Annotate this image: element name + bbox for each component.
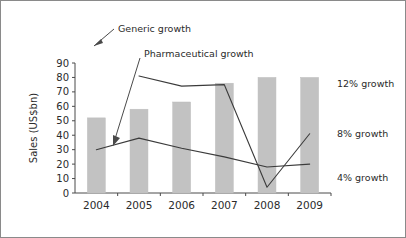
- y-axis-title: Sales (US$bn): [28, 93, 39, 163]
- annotation-generic-growth: Generic growth: [94, 23, 191, 46]
- x-category-label-2004: 2004: [83, 199, 110, 211]
- line-series-group: [96, 76, 309, 187]
- y-tick-label: 0: [63, 188, 69, 199]
- right-label-growth-4: 4% growth: [337, 172, 388, 183]
- x-category-label-2006: 2006: [168, 199, 195, 211]
- y-tick-label: 30: [56, 144, 69, 155]
- right-label-growth-8: 8% growth: [337, 128, 388, 139]
- x-category-label-2005: 2005: [126, 199, 153, 211]
- y-tick-label: 80: [56, 72, 69, 83]
- chart-frame: 0102030405060708090 20042005200620072008…: [0, 0, 406, 238]
- y-tick-label: 60: [56, 101, 69, 112]
- x-axis-group: 200420052006200720082009: [75, 193, 331, 211]
- y-tick-label: 90: [56, 58, 69, 69]
- y-tick-label: 50: [56, 115, 69, 126]
- x-category-label-2009: 2009: [296, 199, 323, 211]
- bar-2004: [87, 118, 105, 193]
- generic-growth-label: Generic growth: [118, 23, 191, 34]
- y-tick-label: 40: [56, 130, 69, 141]
- bar-2006: [173, 102, 191, 193]
- pharmaceutical-growth-label: Pharmaceutical growth: [144, 48, 254, 59]
- y-axis-tick-labels: 0102030405060708090: [56, 58, 69, 199]
- right-growth-labels: 12% growth8% growth4% growth: [337, 78, 394, 183]
- bar-2005: [130, 109, 148, 193]
- x-axis-category-labels: 200420052006200720082009: [83, 199, 323, 211]
- y-axis-group: 0102030405060708090: [56, 58, 75, 199]
- bar-series: [87, 77, 318, 193]
- line-pharmaceutical-growth: [96, 138, 309, 167]
- chart-canvas: 0102030405060708090 20042005200620072008…: [1, 1, 406, 238]
- y-tick-label: 20: [56, 159, 69, 170]
- bar-2008: [258, 77, 276, 193]
- bar-2009: [301, 77, 319, 193]
- x-category-label-2008: 2008: [254, 199, 281, 211]
- x-category-label-2007: 2007: [211, 199, 238, 211]
- right-label-growth-12: 12% growth: [337, 78, 394, 89]
- y-tick-label: 10: [56, 173, 69, 184]
- y-tick-label: 70: [56, 86, 69, 97]
